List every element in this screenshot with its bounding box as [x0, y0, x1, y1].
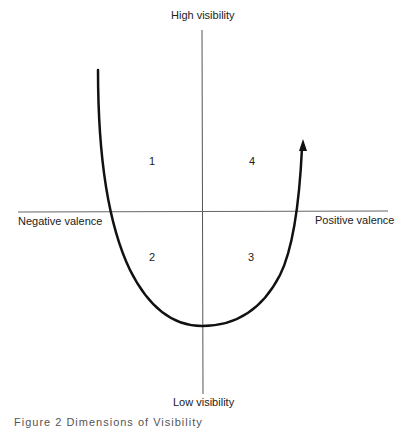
quadrant-2-label: 2: [149, 251, 155, 263]
positive-valence-label: Positive valence: [315, 214, 395, 226]
quadrant-3-label: 3: [248, 251, 254, 263]
quadrant-4-label: 4: [249, 155, 255, 167]
figure-caption: Figure 2 Dimensions of Visibility: [14, 416, 203, 428]
high-visibility-label: High visibility: [171, 9, 235, 21]
u-curve: [98, 70, 302, 326]
low-visibility-label: Low visibility: [173, 396, 234, 408]
negative-valence-label: Negative valence: [18, 215, 102, 227]
arrowhead-icon: [299, 139, 307, 151]
horizontal-axis: [18, 211, 388, 212]
quadrant-1-label: 1: [149, 155, 155, 167]
